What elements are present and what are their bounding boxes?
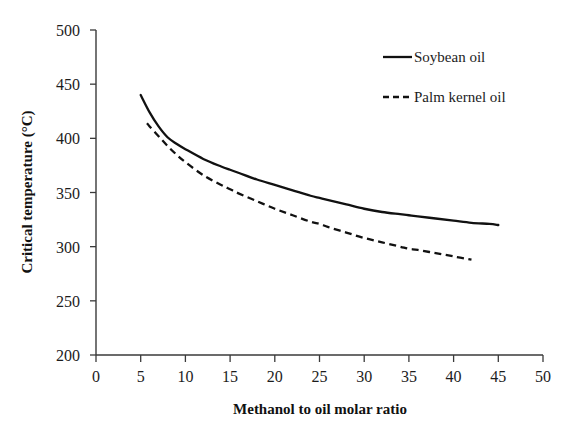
y-tick-label: 400 [56, 130, 80, 147]
chart-background [0, 0, 571, 430]
y-tick-label: 300 [56, 239, 80, 256]
x-tick-label: 15 [222, 368, 238, 385]
x-tick-label: 45 [490, 368, 506, 385]
chart-figure: 200250300350400450500 051015202530354045… [0, 0, 571, 430]
x-tick-label: 0 [92, 368, 100, 385]
chart-canvas: 200250300350400450500 051015202530354045… [0, 0, 571, 430]
y-tick-label: 350 [56, 185, 80, 202]
x-tick-label: 35 [401, 368, 417, 385]
y-tick-label: 200 [56, 347, 80, 364]
x-tick-label: 5 [137, 368, 145, 385]
y-tick-label: 450 [56, 76, 80, 93]
x-tick-label: 50 [535, 368, 551, 385]
x-tick-label: 10 [177, 368, 193, 385]
y-axis-title: Critical temperature (°C) [19, 110, 36, 273]
x-axis-title: Methanol to oil molar ratio [233, 401, 407, 417]
x-tick-label: 40 [446, 368, 462, 385]
x-tick-label: 25 [312, 368, 328, 385]
legend-label-palm-kernel-oil: Palm kernel oil [414, 89, 506, 105]
legend-label-soybean-oil: Soybean oil [414, 49, 485, 65]
y-tick-label: 500 [56, 22, 80, 39]
y-tick-label: 250 [56, 293, 80, 310]
x-tick-label: 30 [356, 368, 372, 385]
x-tick-label: 20 [267, 368, 283, 385]
